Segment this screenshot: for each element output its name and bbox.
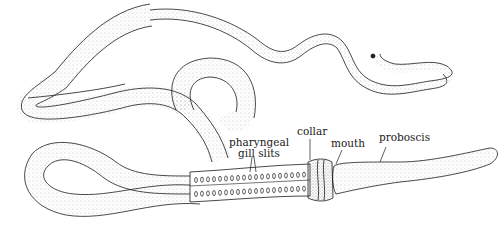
worm-illustration <box>0 0 504 230</box>
label-gill-slits: pharyngeal gill slits <box>229 137 289 159</box>
label-mouth: mouth <box>331 138 365 149</box>
gill-slits-label-line-2: gill slits <box>229 148 289 159</box>
upper-body-loop <box>21 4 228 162</box>
tail-tip <box>371 54 375 58</box>
label-proboscis: proboscis <box>379 132 430 143</box>
collar <box>308 159 333 201</box>
label-collar: collar <box>297 126 327 137</box>
tail-section <box>150 9 452 94</box>
mouth-leader <box>336 150 342 164</box>
lower-coil <box>25 142 200 216</box>
proboscis-leader <box>380 147 386 162</box>
acorn-worm-diagram: pharyngeal gill slits collar mouth probo… <box>0 0 504 230</box>
proboscis <box>333 148 498 194</box>
